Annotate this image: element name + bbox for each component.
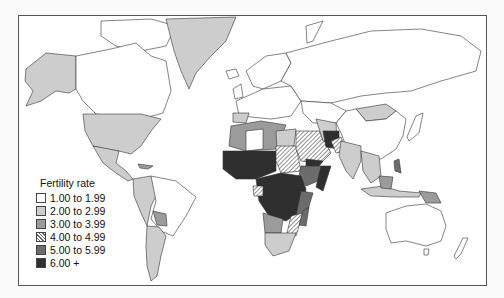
legend-label: 6.00 + (50, 257, 80, 269)
region-australia (386, 204, 446, 246)
region-algeria (246, 129, 263, 151)
region-philippines (394, 159, 401, 173)
region-japan (407, 113, 423, 141)
legend-item-5: 5.00 to 5.99 (36, 243, 105, 256)
legend-item-2: 2.00 to 2.99 (36, 204, 105, 217)
region-scandinavia (246, 53, 291, 89)
region-greenland (166, 17, 236, 89)
region-caribbean (138, 164, 153, 169)
map-frame: Fertility rate 1.00 to 1.99 2.00 to 2.99… (18, 15, 487, 286)
legend-swatch-white (36, 193, 46, 203)
legend-item-6: 6.00 + (36, 256, 105, 269)
legend-label: 5.00 to 5.99 (50, 244, 105, 256)
legend-item-3: 3.00 to 3.99 (36, 217, 105, 230)
region-uk (233, 84, 243, 99)
legend-label: 3.00 to 3.99 (50, 218, 105, 230)
region-png (419, 191, 441, 203)
region-spain (233, 113, 249, 123)
legend-item-1: 1.00 to 1.99 (36, 191, 105, 204)
legend-label: 2.00 to 2.99 (50, 205, 105, 217)
region-southern-africa (265, 233, 296, 256)
legend-swatch-black (36, 258, 46, 268)
region-india (339, 141, 361, 179)
region-tasmania (424, 249, 429, 255)
region-gabon (253, 186, 263, 196)
region-iceland (226, 69, 239, 79)
region-canada (76, 43, 171, 119)
region-se-asia (361, 151, 381, 183)
region-argentina (146, 226, 166, 281)
legend-item-4: 4.00 to 4.99 (36, 230, 105, 243)
map-legend: Fertility rate 1.00 to 1.99 2.00 to 2.99… (36, 177, 105, 269)
region-west-africa (223, 151, 276, 179)
legend-swatch-medium-gray (36, 219, 46, 229)
region-new-zealand (454, 238, 468, 259)
legend-label: 4.00 to 4.99 (50, 231, 105, 243)
region-novaya-zemlya (306, 21, 323, 43)
region-alaska (25, 53, 76, 106)
legend-swatch-light-gray (36, 206, 46, 216)
legend-swatch-dark-gray (36, 245, 46, 255)
legend-label: 1.00 to 1.99 (50, 192, 105, 204)
legend-swatch-hatched (36, 232, 46, 242)
legend-title: Fertility rate (40, 177, 105, 189)
region-borneo (379, 176, 393, 189)
